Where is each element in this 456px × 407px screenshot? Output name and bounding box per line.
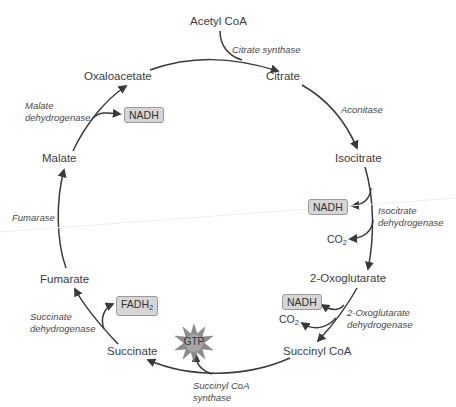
enzyme-2-oxoglutarate-dehydrogenase-line2: dehydrogenase [347, 319, 413, 331]
enzyme-succinyl-coa-synthase: Succinyl CoA synthase [193, 380, 250, 404]
enzyme-succinate-dehydrogenase-line2: dehydrogenase [30, 323, 96, 335]
enzyme-malate-dehydrogenase-line2: dehydrogenase [25, 112, 91, 124]
enzyme-succinyl-coa-synthase-line2: synthase [193, 392, 250, 404]
co2-subscript: 2 [295, 318, 299, 327]
arrow-fadh2 [102, 304, 113, 329]
metabolite-citrate: Citrate [266, 71, 300, 83]
product-nadh-malate: NADH [124, 107, 164, 123]
metabolite-2-oxoglutarate: 2-Oxoglutarate [310, 273, 386, 285]
enzyme-succinate-dehydrogenase: Succinate dehydrogenase [30, 311, 96, 335]
co2-label: CO [327, 233, 343, 245]
enzyme-2-oxoglutarate-dehydrogenase-line1: 2-Oxoglutarate [347, 307, 413, 319]
arrow-nadh-oxoglutarate [322, 305, 344, 310]
enzyme-fumarase: Fumarase [12, 212, 55, 224]
enzyme-malate-dehydrogenase: Malate dehydrogenase [25, 100, 91, 124]
arrow-fumarate-malate [58, 170, 66, 268]
cycle-arrows [0, 0, 456, 407]
fadh-subscript: 2 [149, 303, 153, 312]
product-co2-isocitrate: CO2 [327, 234, 347, 247]
product-nadh-isocitrate: NADH [308, 199, 348, 215]
metabolite-succinyl-coa: Succinyl CoA [283, 346, 351, 358]
metabolite-isocitrate: Isocitrate [335, 153, 382, 165]
metabolite-acetyl-coa: Acetyl CoA [190, 16, 247, 28]
product-gtp: GTP [174, 323, 214, 363]
enzyme-succinyl-coa-synthase-line1: Succinyl CoA [193, 380, 250, 392]
enzyme-isocitrate-dehydrogenase-line2: dehydrogenase [378, 217, 444, 229]
enzyme-isocitrate-dehydrogenase: Isocitrate dehydrogenase [378, 205, 444, 229]
citric-acid-cycle-diagram: Acetyl CoA Citrate Isocitrate 2-Oxogluta… [0, 0, 456, 407]
enzyme-citrate-synthase: Citrate synthase [232, 44, 301, 56]
arrow-citrate-isocitrate [302, 85, 357, 148]
fadh-label: FADH [121, 298, 149, 310]
arrow-oxaloacetate-citrate [150, 60, 278, 71]
enzyme-isocitrate-dehydrogenase-line1: Isocitrate [378, 205, 444, 217]
product-fadh2: FADH2 [116, 296, 158, 316]
enzyme-malate-dehydrogenase-line1: Malate [25, 100, 91, 112]
enzyme-aconitase: Aconitase [341, 104, 383, 116]
gtp-label: GTP [174, 336, 214, 347]
arrow-succinylcoa-succinate [148, 358, 290, 373]
metabolite-malate: Malate [42, 153, 77, 165]
arrow-isocitrate-oxoglutarate [365, 167, 373, 269]
enzyme-succinate-dehydrogenase-line1: Succinate [30, 311, 96, 323]
metabolite-fumarate: Fumarate [40, 274, 89, 286]
co2-subscript: 2 [343, 238, 347, 247]
arrow-co2-isocitrate [350, 220, 373, 239]
metabolite-oxaloacetate: Oxaloacetate [84, 71, 152, 83]
arrow-nadh-isocitrate [352, 188, 371, 206]
product-nadh-oxoglutarate: NADH [282, 294, 322, 310]
metabolite-succinate: Succinate [107, 346, 158, 358]
co2-label: CO [279, 313, 295, 325]
enzyme-2-oxoglutarate-dehydrogenase: 2-Oxoglutarate dehydrogenase [347, 307, 413, 331]
product-co2-oxoglutarate: CO2 [279, 314, 299, 327]
